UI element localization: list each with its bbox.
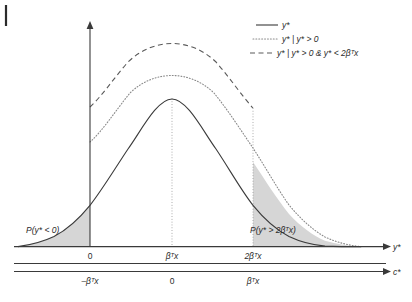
- c-star-tick-betax: βᵀx: [246, 276, 260, 286]
- c-star-axis-arrow-icon: [383, 268, 391, 275]
- y-star-axis-end-label: y*: [392, 242, 401, 252]
- curve-left-truncated: [90, 76, 361, 247]
- legend-label-doubly-truncated: y* | y* > 0 & y* < 2βᵀx: [276, 48, 359, 58]
- y-star-tick-betax: βᵀx: [165, 251, 179, 261]
- curve-latent-full: [18, 99, 361, 247]
- figure-page: y* c* 0 βᵀx 2βᵀx –βᵀx 0 βᵀx P(y* < 0) P(…: [0, 0, 412, 302]
- c-star-tick-neg-betax: –βᵀx: [80, 276, 99, 286]
- c-star-tick-0: 0: [170, 276, 175, 286]
- normal-distribution-truncation-figure: y* c* 0 βᵀx 2βᵀx –βᵀx 0 βᵀx P(y* < 0) P(…: [0, 0, 412, 302]
- left-tail-probability-label: P(y* < 0): [26, 225, 59, 235]
- curve-doubly-truncated: [90, 44, 253, 109]
- right-tail-probability-label: P(y* > 2βᵀx): [250, 225, 296, 235]
- y-star-axis-arrow-icon: [383, 243, 391, 250]
- vertical-axis-arrow-icon: [87, 21, 94, 29]
- c-star-axis-end-label: c*: [393, 267, 401, 277]
- legend-label-latent: y*: [281, 20, 290, 30]
- y-star-tick-2betax: 2βᵀx: [243, 251, 262, 261]
- legend-label-left-truncated: y* | y* > 0: [281, 34, 319, 44]
- y-star-tick-0: 0: [88, 251, 93, 261]
- legend: y* y* | y* > 0 y* | y* > 0 & y* < 2βᵀx: [250, 20, 359, 58]
